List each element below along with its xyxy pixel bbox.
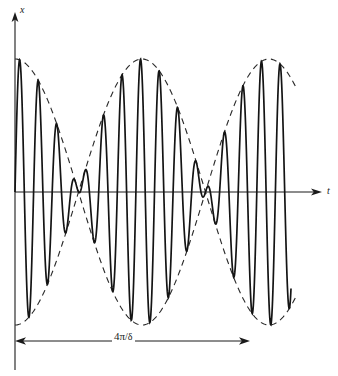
beat-waveform-svg	[0, 0, 338, 376]
t-axis-label: t	[327, 186, 330, 196]
dimension-label: 4π/δ	[112, 331, 135, 342]
dimension-label-numerator: 4π	[114, 330, 125, 342]
dimension-label-denominator: δ	[128, 331, 133, 342]
y-axis-label: x	[20, 5, 24, 15]
beat-waveform-figure: x t 4π/δ	[0, 0, 338, 376]
